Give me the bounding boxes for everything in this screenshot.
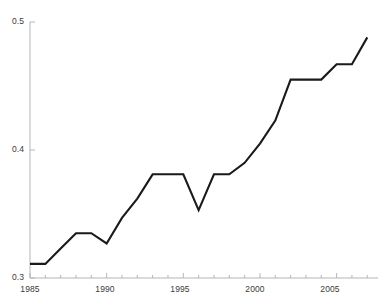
line-chart: 0.5 0.4 0.3 1985 1990 1995 2000 2005 xyxy=(0,0,385,303)
x-axis-tick-label-2005: 2005 xyxy=(313,284,347,294)
x-axis-tick-label-1985: 1985 xyxy=(13,284,47,294)
x-axis-tick-label-1995: 1995 xyxy=(163,284,197,294)
x-axis-ticks xyxy=(30,273,367,278)
plot-area xyxy=(0,0,385,303)
y-axis-tick-label-mid: 0.4 xyxy=(2,144,24,154)
axis-lines xyxy=(30,22,378,278)
y-axis-ticks xyxy=(30,22,35,278)
y-axis-tick-label-bottom: 0.3 xyxy=(2,272,24,282)
data-series-line xyxy=(30,37,367,264)
x-axis-tick-label-1990: 1990 xyxy=(88,284,122,294)
y-axis-tick-label-top: 0.5 xyxy=(2,16,24,26)
x-axis-tick-label-2000: 2000 xyxy=(238,284,272,294)
